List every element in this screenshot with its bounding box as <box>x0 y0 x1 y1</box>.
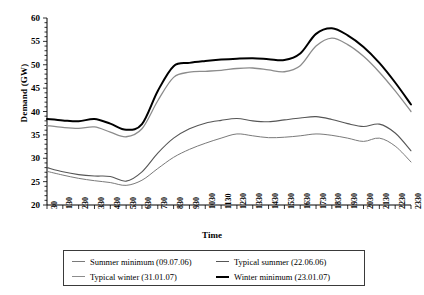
legend-label: Winter minimum (23.01.07) <box>234 272 330 282</box>
series-line <box>47 117 411 182</box>
legend: Summer minimum (09.07.06) Typical summer… <box>63 250 365 286</box>
legend-item-summer-minimum: Summer minimum (09.07.06) <box>70 257 214 267</box>
legend-label: Typical summer (22.06.06) <box>234 257 326 267</box>
legend-item-typical-winter: Typical winter (31.01.07) <box>70 272 214 282</box>
series-line <box>47 28 411 130</box>
legend-item-winter-minimum: Winter minimum (23.01.07) <box>214 272 358 282</box>
legend-swatch-icon <box>216 276 229 278</box>
legend-label: Typical winter (31.01.07) <box>90 272 177 282</box>
legend-row: Typical winter (31.01.07) Winter minimum… <box>70 269 358 284</box>
legend-label: Summer minimum (09.07.06) <box>90 257 192 267</box>
demand-profile-figure: Demand (GW) Time 605550454035302520 3013… <box>0 0 424 295</box>
series-line <box>47 134 411 186</box>
legend-swatch-icon <box>216 261 229 262</box>
legend-item-typical-summer: Typical summer (22.06.06) <box>214 257 358 267</box>
series-line <box>47 38 411 137</box>
legend-swatch-icon <box>72 276 85 277</box>
legend-row: Summer minimum (09.07.06) Typical summer… <box>70 254 358 269</box>
legend-swatch-icon <box>72 261 85 262</box>
